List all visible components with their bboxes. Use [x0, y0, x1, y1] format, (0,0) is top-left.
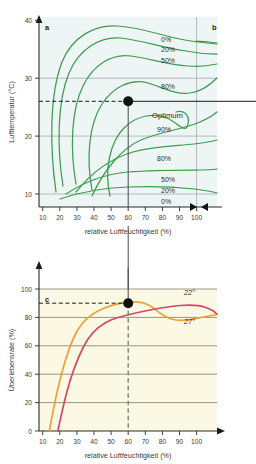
figure-container: 40 30 20 10 10 20 30 40 50 60 70 80 90 1… [0, 0, 256, 464]
panel-a-xtick-90: 90 [176, 214, 184, 221]
panel-a-xtick-30: 30 [73, 214, 81, 221]
panel-c-xtick-60: 60 [125, 438, 133, 445]
contour-label-50-upper: 50% [161, 57, 175, 64]
panel-a-xtick-50: 50 [107, 214, 115, 221]
panel-c-x-ticks [43, 431, 197, 435]
panel-c-y-axis-arrow [36, 261, 43, 269]
panel-a-y-ticks [35, 20, 39, 194]
panel-c-group: 100 80 60 40 20 0 10 20 30 40 50 60 70 8… [7, 261, 225, 460]
contour-label-20-lower: 20% [161, 187, 175, 194]
panel-c-xtick-80: 80 [159, 438, 167, 445]
panel-a-xtick-20: 20 [56, 214, 64, 221]
contour-label-20-upper: 20% [161, 46, 175, 53]
panel-a-xtick-40: 40 [90, 214, 98, 221]
contour-label-0-lower: 0% [161, 198, 171, 205]
curve-label-22: 22° [183, 288, 195, 297]
panel-c-ytick-20: 20 [25, 399, 33, 406]
panel-letter-c: c [45, 295, 49, 304]
panel-a-x-ticks [43, 207, 197, 211]
panel-c-ytick-100: 100 [21, 286, 32, 293]
contour-label-50-lower: 50% [161, 176, 175, 183]
panel-c-xtick-90: 90 [176, 438, 184, 445]
panel-a-ytick-10: 10 [25, 191, 33, 198]
figure-svg: 40 30 20 10 10 20 30 40 50 60 70 80 90 1… [0, 0, 256, 464]
panel-a-y-axis-title: Lufttemperatur (°C) [7, 81, 16, 143]
panel-a-ytick-30: 30 [25, 75, 33, 82]
panel-a-xtick-10: 10 [39, 214, 47, 221]
panel-c-xtick-100: 100 [191, 438, 202, 445]
panel-c-ytick-40: 40 [25, 371, 33, 378]
panel-c-ytick-0: 0 [28, 428, 32, 435]
panel-a-group: 40 30 20 10 10 20 30 40 50 60 70 80 90 1… [7, 15, 256, 236]
panel-c-ytick-60: 60 [25, 342, 33, 349]
panel-a-xtick-60: 60 [125, 214, 133, 221]
panel-c-xtick-40: 40 [90, 438, 98, 445]
panel-c-xtick-70: 70 [142, 438, 150, 445]
panel-c-x-axis-title: relative Luftfeuchtigkeit (%) [85, 451, 172, 460]
panel-c-xtick-30: 30 [73, 438, 81, 445]
curve-label-27: 27° [183, 317, 195, 326]
panel-c-y-axis-title: Überlebensrate (%) [7, 329, 16, 391]
optimum-label: Optimum [152, 111, 183, 120]
panel-a-ytick-20: 20 [25, 133, 33, 140]
panel-a-xtick-80: 80 [159, 214, 167, 221]
panel-c-xtick-10: 10 [39, 438, 47, 445]
contour-label-0-upper: 0% [161, 36, 171, 43]
contour-label-80-upper: 80% [161, 83, 175, 90]
panel-a-xtick-100: 100 [191, 214, 202, 221]
panel-c-marker-point [123, 298, 133, 308]
contour-label-80-lower: 80% [157, 155, 171, 162]
panel-c-ytick-80: 80 [25, 314, 33, 321]
panel-c-x-axis-arrow [217, 428, 225, 435]
panel-c-xtick-50: 50 [107, 438, 115, 445]
panel-c-y-ticks [35, 289, 39, 431]
panel-a-xtick-70: 70 [142, 214, 150, 221]
panel-c-xtick-20: 20 [56, 438, 64, 445]
panel-letter-b: b [212, 23, 217, 32]
contour-label-90: 90% [157, 126, 171, 133]
panel-a-ytick-40: 40 [25, 17, 33, 24]
panel-a-marker-point [123, 96, 133, 106]
